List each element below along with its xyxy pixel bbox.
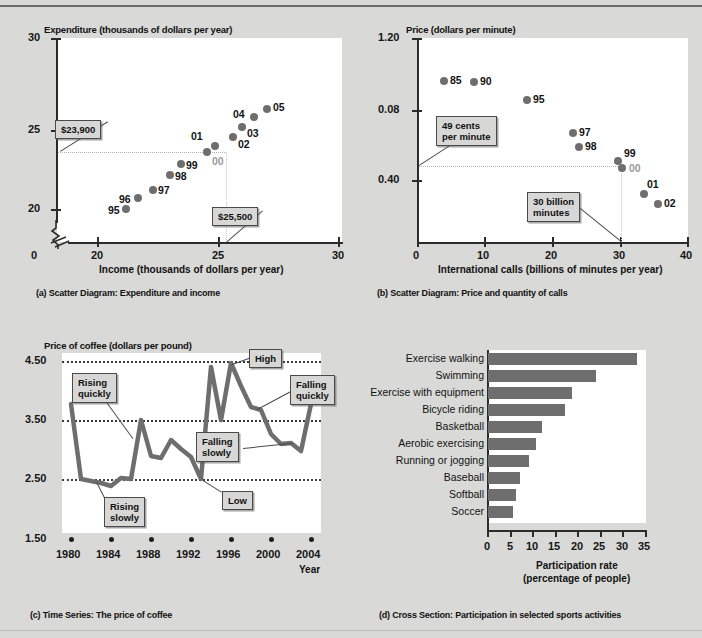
panel-a-y-ticklabel-0: 30 xyxy=(28,31,40,43)
panel-d-bar-label-5: Aerobic exercising xyxy=(360,437,484,449)
panel-a-point-label-00: 00 xyxy=(212,155,224,167)
panel-a-point-99 xyxy=(177,160,185,168)
panel-b-point-label-85: 85 xyxy=(450,74,462,86)
panel-a-point-label-96: 96 xyxy=(119,193,131,205)
panel-d-x-tick-30 xyxy=(622,530,624,537)
panel-b-scatter-price-calls: Price (dollars per minute) 1.20 0.08 0.4… xyxy=(360,0,702,310)
panel-b-point-label-00: 00 xyxy=(629,162,641,174)
panel-d-x-tick-0 xyxy=(487,530,489,537)
panel-b-callout-49-cents-line1: 49 cents xyxy=(442,120,491,131)
panel-b-x-tick-0 xyxy=(417,237,419,247)
panel-a-point-label-02: 02 xyxy=(238,138,250,150)
panel-a-point-05 xyxy=(263,105,271,113)
panel-a-point-04 xyxy=(250,113,258,121)
panel-a-point-label-03: 03 xyxy=(247,127,259,139)
panel-d-bar-label-3: Bicycle riding xyxy=(360,403,484,415)
panel-a-callout-23900: $23,900 xyxy=(55,120,101,139)
panel-a-x-ticklabel-1: 20 xyxy=(91,249,103,261)
panel-d-bar-7 xyxy=(488,472,520,484)
panel-c-callout-rising-slowly-line2: slowly xyxy=(110,512,139,523)
panel-a-point-label-01: 01 xyxy=(191,130,203,142)
panel-a-x-tick-30 xyxy=(338,237,340,247)
panel-a-point-00 xyxy=(203,148,211,156)
panel-b-point-label-95: 95 xyxy=(533,93,545,105)
panel-d-bar-3 xyxy=(488,404,565,416)
panel-a-caption: (a) Scatter Diagram: Expenditure and inc… xyxy=(36,288,220,298)
panel-d-x-axis-label-line1: Participation rate xyxy=(536,560,618,571)
panel-d-bar-label-1: Swimming xyxy=(360,369,484,381)
panel-c-callout-high: High xyxy=(249,349,282,368)
panel-a-ref-line-vertical xyxy=(226,152,227,242)
panel-d-bar-label-4: Basketball xyxy=(360,420,484,432)
panel-b-y-ticklabel-0: 1.20 xyxy=(378,31,399,43)
panel-a-point-label-05: 05 xyxy=(273,101,285,113)
panel-a-ref-line-horizontal xyxy=(58,152,225,153)
panel-a-point-03 xyxy=(238,123,246,131)
panel-d-x-ticklabel-3: 15 xyxy=(548,540,560,552)
panel-c-callout-low: Low xyxy=(222,491,253,510)
panel-d-bar-label-9: Soccer xyxy=(360,505,484,517)
panel-c-timeseries-coffee: Price of coffee (dollars per pound) 4.50… xyxy=(0,310,360,638)
panel-b-point-label-02: 02 xyxy=(664,197,676,209)
panel-b-point-00 xyxy=(618,164,626,172)
panel-b-title: Price (dollars per minute) xyxy=(406,24,515,35)
panel-a-x-tick-25 xyxy=(218,237,220,247)
panel-a-point-label-95: 95 xyxy=(108,204,120,216)
panel-b-y-tick-0 xyxy=(412,38,422,40)
panel-b-y-ticklabel-2: 0.40 xyxy=(378,173,399,185)
panel-b-point-02 xyxy=(654,200,662,208)
panel-d-x-ticklabel-6: 30 xyxy=(616,540,628,552)
panel-c-callout-rising-slowly: Rising slowly xyxy=(104,497,145,527)
panel-a-x-axis xyxy=(68,242,343,244)
panel-b-y-ticklabel-1: 0.08 xyxy=(378,103,399,115)
figure-page: Expenditure (thousands of dollars per ye… xyxy=(0,0,702,638)
panel-b-point-label-90: 90 xyxy=(480,75,492,87)
panel-b-callout-30-billion: 30 billion minutes xyxy=(527,192,580,222)
panel-d-x-ticklabel-5: 25 xyxy=(593,540,605,552)
panel-c-callout-rising-quickly-line2: quickly xyxy=(78,388,111,399)
panel-b-x-tick-10 xyxy=(484,237,486,247)
panel-a-x-ticklabel-3: 30 xyxy=(332,249,344,261)
panel-a-x-ticklabel-2: 25 xyxy=(212,249,224,261)
panel-a-scatter-expenditure-income: Expenditure (thousands of dollars per ye… xyxy=(0,0,360,310)
panel-b-caption: (b) Scatter Diagram: Price and quantity … xyxy=(377,288,567,298)
panel-b-ref-line-horizontal xyxy=(419,166,620,167)
panel-c-callout-falling-slowly-line1: Falling xyxy=(202,436,233,447)
panel-a-point-01 xyxy=(211,142,219,150)
panel-b-x-axis-label: International calls (billions of minutes… xyxy=(438,264,663,275)
panel-b-x-ticklabel-4: 40 xyxy=(680,249,692,261)
panel-a-point-label-98: 98 xyxy=(175,170,187,182)
panel-b-point-95 xyxy=(523,96,531,104)
panel-a-point-96 xyxy=(134,194,142,202)
panel-a-point-label-99: 99 xyxy=(186,159,198,171)
panel-b-y-axis xyxy=(417,38,419,243)
panel-c-callout-rising-quickly-line1: Rising xyxy=(78,377,111,388)
panel-d-x-ticklabel-2: 10 xyxy=(526,540,538,552)
panel-c-caption: (c) Time Series: The price of coffee xyxy=(30,610,172,620)
panel-b-x-ticklabel-3: 30 xyxy=(613,249,625,261)
panel-d-caption: (d) Cross Section: Participation in sele… xyxy=(379,610,621,620)
panel-b-point-label-99: 99 xyxy=(624,147,636,159)
panel-b-callout-30-billion-line2: minutes xyxy=(533,207,574,218)
panel-a-y-ticklabel-1: 25 xyxy=(28,123,40,135)
panel-a-axis-break-icon xyxy=(44,218,78,250)
panel-d-x-tick-25 xyxy=(600,530,602,537)
panel-b-point-label-98: 98 xyxy=(585,140,597,152)
panel-a-point-97 xyxy=(149,186,157,194)
panel-a-x-ticklabel-0: 0 xyxy=(31,249,37,261)
panel-a-point-02 xyxy=(229,133,237,141)
panel-d-x-tick-15 xyxy=(555,530,557,537)
panel-d-bar-8 xyxy=(488,489,516,501)
panel-a-x-axis-label: Income (thousands of dollars per year) xyxy=(99,264,283,275)
panel-b-y-tick-1 xyxy=(412,110,422,112)
panel-a-point-label-04: 04 xyxy=(233,108,245,120)
panel-b-y-tick-2 xyxy=(412,180,422,182)
panel-b-callout-49-cents: 49 cents per minute xyxy=(436,116,497,146)
panel-c-callout-high-line1: High xyxy=(255,353,276,364)
panel-d-x-tick-35 xyxy=(645,530,647,537)
panel-c-callout-falling-quickly-line1: Falling xyxy=(296,379,329,390)
panel-a-y-tick-20 xyxy=(51,209,61,211)
panel-d-x-ticklabel-4: 20 xyxy=(571,540,583,552)
panel-a-callout-25500: $25,500 xyxy=(212,207,258,226)
panel-d-x-tick-10 xyxy=(532,530,534,537)
